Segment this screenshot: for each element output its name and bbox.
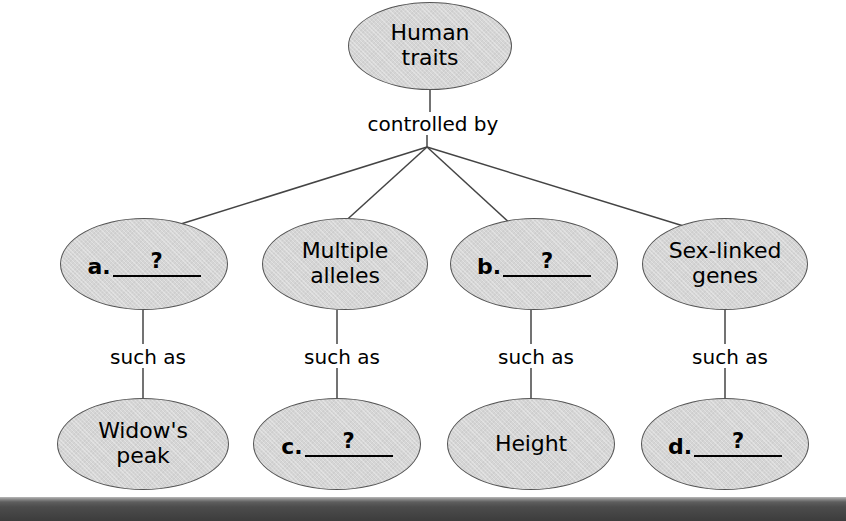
blank-placeholder-d: ?	[694, 431, 782, 455]
node-level2-multiple-alleles-label: Multiple alleles	[296, 239, 395, 289]
node-level2-a[interactable]: a. ?	[60, 218, 228, 310]
connector-fan-1	[168, 147, 427, 228]
edge-label-controlled-by: controlled by	[358, 113, 508, 135]
blank-answer-c: c. ?	[281, 431, 392, 457]
concept-map-diagram: Human traits controlled by a. ? Multiple…	[0, 0, 846, 521]
node-human-traits-label: Human traits	[385, 21, 476, 71]
blank-placeholder-b: ?	[503, 251, 591, 275]
blank-placeholder-c: ?	[305, 431, 393, 455]
edge-label-such-as-4: such as	[672, 346, 788, 368]
blank-answer-b: b. ?	[477, 251, 591, 277]
blank-letter-a: a.	[87, 256, 110, 278]
node-level3-c[interactable]: c. ?	[253, 398, 421, 490]
connector-fan-3	[427, 147, 513, 226]
blank-answer-d: d. ?	[668, 431, 782, 457]
blank-rule-d: ?	[694, 431, 782, 457]
node-human-traits[interactable]: Human traits	[348, 2, 512, 90]
blank-answer-a: a. ?	[87, 251, 200, 277]
node-level2-b[interactable]: b. ?	[450, 218, 618, 310]
blank-letter-c: c.	[281, 436, 302, 458]
connector-fan-2	[340, 147, 427, 226]
node-level3-height[interactable]: Height	[447, 398, 615, 490]
blank-letter-d: d.	[668, 436, 692, 458]
blank-rule-b: ?	[503, 251, 591, 277]
blank-rule-a: ?	[113, 251, 201, 277]
node-level2-multiple-alleles[interactable]: Multiple alleles	[262, 218, 428, 310]
edge-label-such-as-2: such as	[284, 346, 400, 368]
node-level2-sex-linked-genes[interactable]: Sex-linked genes	[642, 218, 808, 310]
edge-label-such-as-3: such as	[478, 346, 594, 368]
blank-rule-c: ?	[305, 431, 393, 457]
page-bottom-bar	[0, 497, 846, 521]
blank-placeholder-a: ?	[113, 251, 201, 275]
edge-label-such-as-1: such as	[90, 346, 206, 368]
blank-letter-b: b.	[477, 256, 501, 278]
node-level2-sex-linked-genes-label: Sex-linked genes	[663, 239, 788, 289]
node-level3-widows-peak[interactable]: Widow's peak	[57, 398, 229, 490]
node-level3-height-label: Height	[489, 432, 573, 457]
node-level3-widows-peak-label: Widow's peak	[92, 419, 194, 469]
connector-fan-4	[427, 147, 690, 228]
node-level3-d[interactable]: d. ?	[641, 398, 809, 490]
